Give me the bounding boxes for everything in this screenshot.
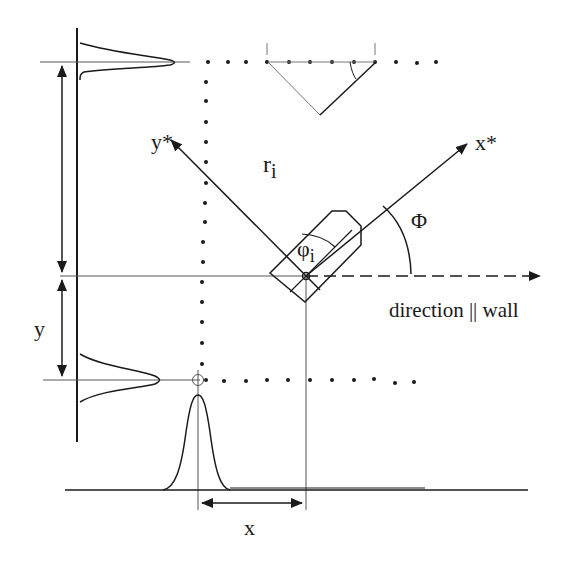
sensor-triangle xyxy=(267,43,376,115)
robot-localization-diagram: x* y* ri φi Φ direction || wall y x xyxy=(0,0,583,561)
dotted-wall-lines xyxy=(200,60,438,385)
phi-angle-arc xyxy=(383,206,411,274)
y-label: y xyxy=(34,316,45,341)
bottom-gaussian-curve xyxy=(80,354,160,402)
y-star-label: y* xyxy=(151,129,173,154)
y-distribution-axis xyxy=(40,28,200,442)
x-distribution-axis xyxy=(65,395,528,490)
x-star-label: x* xyxy=(475,130,497,155)
phi-label: Φ xyxy=(411,208,427,233)
r-i-label: ri xyxy=(263,151,277,182)
phi-i-label: φi xyxy=(297,236,315,266)
x-label: x xyxy=(244,515,255,540)
bottom-x-gaussian-curve xyxy=(163,395,230,490)
robot-body xyxy=(270,211,361,302)
y-star-axis-arrow xyxy=(171,140,320,290)
direction-wall-label: direction || wall xyxy=(389,298,519,322)
